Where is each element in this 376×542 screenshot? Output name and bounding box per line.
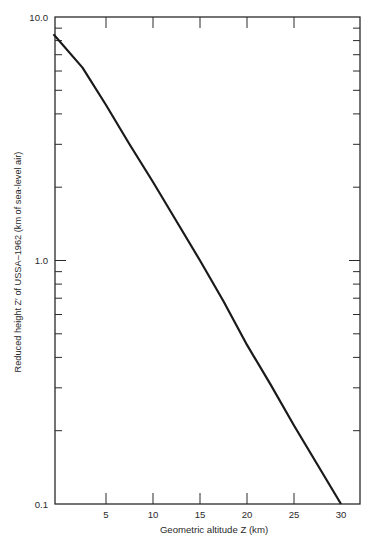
- x-tick-label: 20: [242, 509, 253, 520]
- x-tick-label: 5: [103, 509, 108, 520]
- x-tick-label: 30: [336, 509, 347, 520]
- y-tick-label: 1.0: [35, 255, 48, 266]
- plot-frame: [55, 17, 360, 504]
- y-axis-label: Reduced height Z′ of USSA–1962 (km of se…: [13, 152, 23, 373]
- y-tick-label: 10.0: [29, 12, 48, 23]
- x-tick-label: 15: [195, 509, 206, 520]
- chart-plot: 51015202530 0.11.010.0: [0, 0, 376, 542]
- y-axis-ticks: 0.11.010.0: [29, 12, 360, 510]
- x-axis-ticks: 51015202530: [103, 17, 346, 520]
- data-curve: [54, 34, 342, 504]
- y-tick-label: 0.1: [35, 499, 48, 510]
- x-tick-label: 10: [148, 509, 159, 520]
- x-tick-label: 25: [289, 509, 300, 520]
- x-axis-label: Geometric altitude Z (km): [160, 524, 268, 535]
